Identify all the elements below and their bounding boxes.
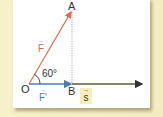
point-label-a: A: [68, 1, 75, 12]
point-label-o: O: [21, 84, 30, 95]
displacement-vector-label: → s: [80, 88, 92, 104]
angle-label: 60°: [42, 68, 57, 79]
force-vector-label: → F: [38, 39, 44, 54]
point-label-b: B: [68, 86, 75, 97]
projection-symbol: F': [39, 92, 47, 103]
projection-vector-label: → F': [39, 88, 47, 103]
displacement-symbol: s: [84, 92, 89, 103]
force-symbol: F: [38, 43, 44, 54]
angle-arc: [35, 75, 41, 85]
